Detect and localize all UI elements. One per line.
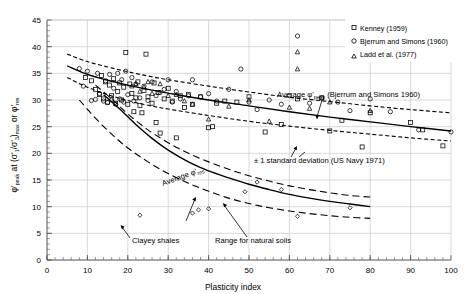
x-tick-label: 80 [366, 266, 375, 275]
x-tick-label: 0 [45, 266, 50, 275]
y-tick-label: 0 [37, 256, 42, 265]
legend-item-kenney: Kenney (1959) [352, 24, 407, 33]
y-tick-label: 25 [32, 123, 41, 132]
x-tick-label: 60 [285, 266, 294, 275]
legend-label-bjerrum: Bjerrum and Simons (1960) [360, 37, 448, 46]
legend-label-ladd: Ladd et al. (1977) [360, 50, 416, 59]
annot-avg-peak-ref: (Bjerrum and Simons 1960) [325, 90, 420, 99]
y-tick-label: 10 [32, 203, 41, 212]
x-axis-title: Plasticity index [205, 282, 262, 292]
phi-vs-plasticity-index-chart: 0102030405060708090100 05101520253035404… [0, 0, 466, 294]
x-tick-label: 50 [245, 266, 254, 275]
y-title-peak-sub: peak [14, 174, 20, 186]
legend-label-kenney: Kenney (1959) [360, 24, 407, 33]
x-tick-label: 70 [325, 266, 334, 275]
legend: Kenney (1959) Bjerrum and Simons (1960) … [345, 19, 464, 62]
annot-avg-peak-word: Average [277, 90, 307, 99]
y-tick-label: 5 [37, 229, 42, 238]
y-title-at: at ( [9, 159, 19, 174]
legend-item-ladd: Ladd et al. (1977) [352, 50, 417, 59]
annot-avg-peak-sub: peak [314, 94, 326, 100]
x-tick-label: 90 [406, 266, 415, 275]
x-tick-label: 30 [164, 266, 173, 275]
x-tick-label: 40 [204, 266, 213, 275]
y-tick-label: 45 [32, 16, 41, 25]
y-title-or: or [9, 112, 19, 124]
y-title-res-sub: res [14, 97, 20, 105]
figure-container: 0102030405060708090100 05101520253035404… [0, 0, 466, 294]
y-title-max-sub: max [14, 124, 20, 134]
annot-range-text: Range for natural soils [215, 236, 291, 245]
y-tick-label: 20 [32, 149, 41, 158]
x-tick-label: 100 [444, 266, 458, 275]
y-tick-label: 35 [32, 69, 41, 78]
annot-clayey-text: Clayey shales [132, 236, 179, 245]
svg-text:Average φ'peak (Bjerrum and Si: Average φ'peak (Bjerrum and Simons 1960) [277, 90, 421, 100]
x-tick-label: 20 [123, 266, 132, 275]
y-tick-label: 30 [32, 96, 41, 105]
legend-item-bjerrum: Bjerrum and Simons (1960) [352, 37, 448, 46]
annot-std-text: ± 1 standard deviation (US Navy 1971) [254, 156, 385, 165]
y-tick-label: 40 [32, 43, 41, 52]
y-tick-label: 15 [32, 176, 41, 185]
x-tick-label: 10 [83, 266, 92, 275]
